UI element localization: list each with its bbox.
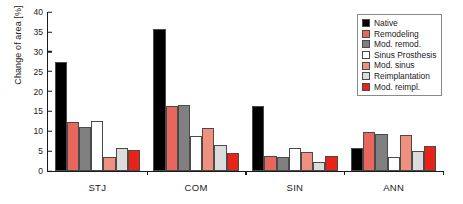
bar[interactable]	[128, 150, 140, 171]
y-axis-tick-label: 0	[38, 167, 48, 176]
bar[interactable]	[375, 134, 387, 171]
legend-item-label: Mod. remod.	[374, 40, 421, 48]
legend-item[interactable]: Remodeling	[362, 29, 436, 40]
legend-item-label: Remodeling	[374, 30, 419, 38]
bar[interactable]	[351, 148, 363, 171]
legend-item[interactable]: Reimplantation	[362, 71, 436, 82]
legend-item-label: Mod. sinus	[374, 61, 415, 69]
legend-color-swatch	[362, 51, 370, 59]
legend-item[interactable]: Sinus Prosthesis	[362, 50, 436, 61]
legend-item-label: Sinus Prosthesis	[374, 51, 436, 59]
bar[interactable]	[67, 122, 79, 171]
bars-container	[246, 12, 345, 171]
legend-item-label: Reimplantation	[374, 72, 430, 80]
bar[interactable]	[190, 136, 202, 171]
bar[interactable]	[424, 146, 436, 171]
legend-item[interactable]: Mod. reimpl.	[362, 82, 436, 93]
bar[interactable]	[325, 156, 337, 171]
y-axis-tick-label: 10	[34, 127, 48, 136]
bar[interactable]	[166, 106, 178, 171]
bar[interactable]	[178, 105, 190, 171]
bar[interactable]	[400, 135, 412, 171]
legend-color-swatch	[362, 83, 370, 91]
bar[interactable]	[277, 157, 289, 171]
chart-legend: NativeRemodelingMod. remod.Sinus Prosthe…	[357, 14, 442, 96]
bar[interactable]	[363, 132, 375, 171]
legend-color-swatch	[362, 40, 370, 48]
legend-item[interactable]: Mod. remod.	[362, 39, 436, 50]
y-axis-tick-label: 25	[34, 67, 48, 76]
bar[interactable]	[301, 152, 313, 171]
bar[interactable]	[91, 121, 103, 171]
legend-color-swatch	[362, 19, 370, 27]
bar-group: COM	[147, 12, 246, 171]
y-axis-tick-label: 20	[34, 87, 48, 96]
legend-item-label: Mod. reimpl.	[374, 83, 420, 91]
x-axis-tick-mark	[245, 171, 246, 175]
legend-item[interactable]: Native	[362, 18, 436, 29]
x-axis-tick-mark	[443, 171, 444, 175]
bar[interactable]	[227, 153, 239, 171]
y-axis-tick-label: 5	[38, 147, 48, 156]
bar-group: SIN	[246, 12, 345, 171]
bar-chart: Change of area [%] 0510152025303540 STJC…	[0, 0, 463, 204]
bars-container	[48, 12, 147, 171]
bar[interactable]	[116, 148, 128, 171]
x-axis-category-label: COM	[147, 182, 246, 193]
bar[interactable]	[264, 156, 276, 171]
y-axis-tick-label: 40	[34, 8, 48, 17]
bar[interactable]	[214, 145, 226, 171]
bar[interactable]	[388, 157, 400, 171]
x-axis-category-label: STJ	[48, 182, 147, 193]
y-axis-tick-label: 35	[34, 28, 48, 37]
bar[interactable]	[202, 128, 214, 171]
legend-item[interactable]: Mod. sinus	[362, 60, 436, 71]
y-axis-title: Change of area [%]	[13, 0, 23, 115]
y-axis-tick-label: 15	[34, 107, 48, 116]
bar[interactable]	[313, 162, 325, 171]
bar[interactable]	[252, 106, 264, 171]
bar-group: STJ	[48, 12, 147, 171]
x-axis-tick-mark	[147, 171, 148, 175]
legend-item-label: Native	[374, 19, 398, 27]
bar[interactable]	[55, 62, 67, 171]
bars-container	[147, 12, 246, 171]
y-axis-tick-label: 30	[34, 48, 48, 57]
bar[interactable]	[103, 157, 115, 171]
x-axis-category-label: ANN	[344, 182, 443, 193]
bar[interactable]	[289, 148, 301, 171]
legend-color-swatch	[362, 72, 370, 80]
legend-color-swatch	[362, 62, 370, 70]
bar[interactable]	[153, 29, 165, 171]
bar[interactable]	[79, 127, 91, 171]
x-axis-tick-mark	[344, 171, 345, 175]
legend-color-swatch	[362, 30, 370, 38]
x-axis-category-label: SIN	[246, 182, 345, 193]
bar[interactable]	[412, 151, 424, 171]
